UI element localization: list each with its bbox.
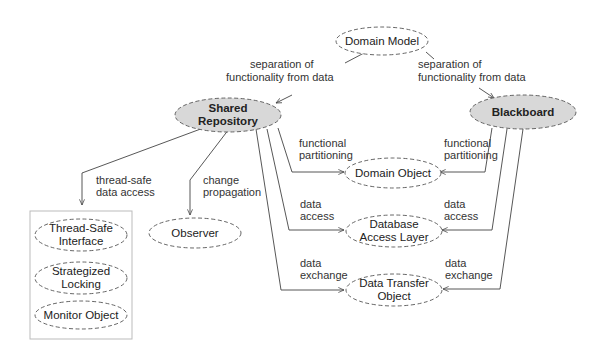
node-strategized-locking-label-1: Strategized: [52, 265, 110, 277]
label-change-1: change: [203, 174, 239, 186]
edge-domain-model-to-shared-repository: [276, 95, 292, 103]
label-bb-dx-1: data: [445, 257, 467, 269]
node-data-transfer-object-label-1: Data Transfer: [359, 277, 429, 289]
node-blackboard-label: Blackboard: [492, 106, 555, 118]
node-blackboard[interactable]: Blackboard: [470, 95, 576, 129]
node-data-transfer-object[interactable]: Data Transfer Object: [346, 274, 442, 306]
label-sr-fp-1: functional: [299, 137, 346, 149]
label-thread-safe-1: thread-safe: [96, 174, 152, 186]
node-data-transfer-object-label-2: Object: [377, 290, 411, 302]
edges: [82, 52, 523, 290]
label-thread-safe-2: data access: [96, 186, 155, 198]
node-shared-repository-label-2: Repository: [198, 115, 259, 127]
node-thread-safe-interface[interactable]: Thread-Safe Interface: [35, 219, 127, 251]
node-observer[interactable]: Observer: [149, 218, 241, 248]
edge-domain-model-to-blackboard: [479, 88, 494, 98]
node-strategized-locking-label-2: Locking: [61, 278, 101, 290]
edge-change-propagation: [190, 129, 229, 215]
label-sr-dx-2: exchange: [300, 269, 348, 281]
label-bb-separation-2: functionality from data: [418, 71, 526, 83]
label-bb-dx-2: exchange: [445, 269, 493, 281]
label-bb-da-2: access: [444, 210, 479, 222]
node-shared-repository-label-1: Shared: [209, 102, 248, 114]
node-database-access-layer[interactable]: Database Access Layer: [346, 215, 442, 247]
node-thread-safe-interface-label-1: Thread-Safe: [49, 222, 113, 234]
node-observer-label: Observer: [171, 227, 218, 239]
node-thread-safe-interface-label-2: Interface: [59, 235, 104, 247]
node-domain-model-label: Domain Model: [345, 35, 419, 47]
node-database-access-layer-label-2: Access Layer: [359, 231, 428, 243]
node-monitor-object[interactable]: Monitor Object: [35, 301, 127, 329]
label-bb-da-1: data: [444, 198, 466, 210]
node-database-access-layer-label-1: Database: [369, 218, 418, 230]
label-sr-separation-1: separation of: [250, 58, 315, 70]
edge-domain-model-to-shared-repository-top: [345, 53, 364, 63]
label-sr-da-2: access: [300, 210, 335, 222]
label-bb-fp-2: partitioning: [444, 149, 498, 161]
node-domain-model[interactable]: Domain Model: [336, 27, 428, 55]
node-monitor-object-label: Monitor Object: [44, 309, 120, 321]
edge-labels: separation of functionality from data se…: [96, 58, 526, 281]
label-change-2: propagation: [203, 186, 261, 198]
label-bb-fp-1: functional: [444, 137, 491, 149]
label-bb-separation-1: separation of: [418, 58, 483, 70]
node-shared-repository[interactable]: Shared Repository: [175, 98, 281, 132]
node-domain-object-label: Domain Object: [355, 167, 432, 179]
label-sr-dx-1: data: [300, 257, 322, 269]
label-sr-fp-2: partitioning: [299, 149, 353, 161]
label-sr-separation-2: functionality from data: [226, 71, 334, 83]
pattern-relationship-diagram: separation of functionality from data se…: [0, 0, 607, 353]
label-sr-da-1: data: [300, 198, 322, 210]
node-strategized-locking[interactable]: Strategized Locking: [35, 262, 127, 294]
node-domain-object[interactable]: Domain Object: [345, 158, 441, 188]
